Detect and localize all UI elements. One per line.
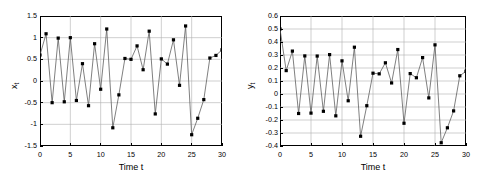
y-axis-label-left: xt [10, 83, 20, 89]
x-tickmark [40, 143, 41, 146]
y-tickmark [40, 124, 43, 125]
x-tick-label: 5 [309, 151, 313, 158]
y-tickmark [40, 102, 43, 103]
x-tickmark [100, 143, 101, 146]
plot-series-left [0, 0, 238, 179]
y-tick-label: 0 [274, 90, 278, 97]
y-tickmark [280, 42, 283, 43]
x-axis-label-left: Time t [119, 163, 144, 172]
panel-right-yt: 0.60.50.40.30.20.10-0.1-0.2-0.3-0.405101… [238, 0, 477, 179]
x-axis-label-right: Time t [361, 163, 386, 172]
y-tickmark [280, 29, 283, 30]
y-tickmark [280, 55, 283, 56]
y-tick-label: 0.5 [268, 25, 278, 32]
y-tickmark [280, 16, 283, 17]
figure-two-panel-timeseries: 1.510.50-0.5-1-1.5051015202530 xt Time t… [0, 0, 477, 179]
y-tick-label: 0.4 [268, 38, 278, 45]
x-tick-label: 30 [462, 151, 470, 158]
y-tick-label: -1.5 [25, 142, 37, 149]
y-tick-label: -1 [31, 121, 37, 128]
x-tickmark [131, 143, 132, 146]
x-tick-label: 5 [68, 151, 72, 158]
y-tick-label: -0.4 [266, 142, 278, 149]
x-tickmark [342, 143, 343, 146]
y-tick-label: -0.3 [266, 129, 278, 136]
x-tick-label: 15 [369, 151, 377, 158]
x-tickmark [191, 143, 192, 146]
x-tickmark [311, 143, 312, 146]
x-tick-label: 25 [431, 151, 439, 158]
y-tickmark [40, 59, 43, 60]
y-tick-label: -0.2 [266, 116, 278, 123]
x-tick-label: 25 [188, 151, 196, 158]
y-tick-label: -0.5 [25, 99, 37, 106]
y-tick-label: 0.3 [268, 51, 278, 58]
y-tick-label: -0.1 [266, 103, 278, 110]
y-axis-label-subscript: t [249, 83, 256, 85]
y-tickmark [40, 37, 43, 38]
y-axis-label-subscript: t [13, 83, 20, 85]
y-tick-label: 0.6 [268, 12, 278, 19]
y-axis-label-main: y [245, 85, 255, 90]
panel-left-xt: 1.510.50-0.5-1-1.5051015202530 xt Time t [0, 0, 238, 179]
x-tick-label: 0 [278, 151, 282, 158]
y-axis-label-right: yt [246, 83, 256, 89]
y-tick-label: 0.2 [268, 64, 278, 71]
x-tick-label: 20 [157, 151, 165, 158]
x-tickmark [435, 143, 436, 146]
y-tick-label: 0 [33, 77, 37, 84]
y-tickmark [40, 16, 43, 17]
y-tickmark [40, 81, 43, 82]
x-tickmark [404, 143, 405, 146]
y-tick-label: 1 [33, 34, 37, 41]
x-tickmark [280, 143, 281, 146]
y-tick-label: 1.5 [27, 12, 37, 19]
x-tickmark [373, 143, 374, 146]
y-tickmark [280, 107, 283, 108]
x-tick-label: 10 [338, 151, 346, 158]
y-tick-label: 0.1 [268, 77, 278, 84]
x-tick-label: 10 [97, 151, 105, 158]
x-tickmark [161, 143, 162, 146]
y-tickmark [280, 68, 283, 69]
x-tick-label: 0 [38, 151, 42, 158]
x-tick-label: 20 [400, 151, 408, 158]
y-tickmark [280, 120, 283, 121]
x-tickmark [466, 143, 467, 146]
y-tickmark [280, 81, 283, 82]
y-tick-label: 0.5 [27, 56, 37, 63]
x-tick-label: 15 [127, 151, 135, 158]
x-tickmark [222, 143, 223, 146]
y-tickmark [280, 133, 283, 134]
x-tick-label: 30 [218, 151, 226, 158]
y-tickmark [280, 94, 283, 95]
x-tickmark [70, 143, 71, 146]
y-axis-label-main: x [9, 85, 19, 90]
